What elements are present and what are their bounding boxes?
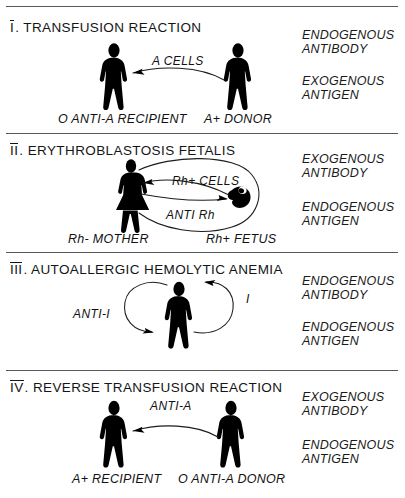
panel-2-left-caption: Rh- MOTHER [68,232,149,246]
panel-4-side-line-3: ENDOGENOUS [302,438,394,453]
panel-3-side-line-3: ENDOGENOUS [302,320,394,335]
panel-1-side-line-3: EXOGENOUS [302,74,384,89]
panel-1-left-caption: O ANTI-A RECIPIENT [58,112,187,126]
panel-1-arrow-label: A CELLS [152,54,204,68]
fetus-figure-icon [228,186,251,208]
anti-rh-arrowhead-icon [217,195,229,201]
panel-3-side-line-1: ENDOGENOUS [302,274,394,289]
mother-figure-icon [116,159,149,233]
panel-4-side-line-2: ANTIBODY [302,404,368,419]
cropped-caption-remnant [14,490,254,498]
panel-2-arrow-label-bottom: ANTI Rh [166,208,215,222]
panel-1-side-line-4: ANTIGEN [302,88,359,103]
panel-2-arrow-label-top: Rh+ CELLS [172,174,239,188]
panel-1-side-line-2: ANTIBODY [302,42,368,57]
panel-2-side-line-1: EXOGENOUS [302,152,384,167]
panel-1-right-caption: A+ DONOR [204,112,272,126]
panel-4-side-line-4: ANTIGEN [302,452,359,467]
panel-4-arrow-label: ANTI-A [150,399,192,413]
panel-2-side-line-2: ANTIBODY [302,166,368,181]
self-figure-icon [165,282,192,349]
panel-2-artwork [0,133,405,252]
panel-3-artwork [0,252,405,370]
panel-4-side-line-1: EXOGENOUS [302,390,384,405]
immunology-reaction-diagram: I. TRANSFUSION REACTION A CELLS O ANTI-A… [0,0,405,498]
donor-figure-icon [224,43,251,110]
panel-4-right-caption: O ANTI-A DONOR [178,472,285,486]
anti-rh-arrow-icon [141,194,226,200]
i-antigen-arrowhead-icon [204,280,216,286]
panel-2-right-caption: Rh+ FETUS [206,232,276,246]
panel-3-arrow-label-left: ANTI-I [73,307,110,321]
recipient-figure-icon [100,43,127,110]
reverse-recipient-figure-icon [100,401,127,468]
anti-a-arrow-icon [133,426,218,437]
anti-i-loop-icon [125,282,167,332]
panel-2-side-line-4: ANTIGEN [302,214,359,229]
panel-3-side-line-2: ANTIBODY [302,288,368,303]
panel-3-side-line-4: ANTIGEN [302,334,359,349]
i-antigen-loop-icon [194,282,233,333]
panel-1-side-line-1: ENDOGENOUS [302,28,394,43]
a-cells-arrowhead-icon [133,69,145,75]
panel-3-arrow-label-right: I [246,292,250,306]
anti-a-arrowhead-icon [133,427,145,433]
reverse-donor-figure-icon [217,401,244,468]
panel-4-left-caption: A+ RECIPIENT [72,472,161,486]
a-cells-arrow-icon [133,68,224,80]
panel-2-side-line-3: ENDOGENOUS [302,200,394,215]
